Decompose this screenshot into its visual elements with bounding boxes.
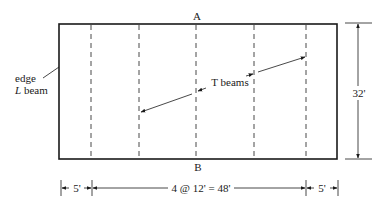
edge-label: edge <box>15 72 36 84</box>
t-beam-arrow-1 <box>141 94 192 112</box>
edge-leader-line <box>43 67 59 78</box>
t-beam-lines <box>91 25 306 158</box>
section-label-b: B <box>194 161 201 173</box>
right-span-label: 5' <box>318 182 326 194</box>
floor-plan-diagram: A B edge L beam T beams 32' 5' 4 @ 12' =… <box>0 0 383 211</box>
t-beams-label: T beams <box>211 76 248 88</box>
l-beam-label: L beam <box>14 84 48 96</box>
left-span-label: 5' <box>73 182 81 194</box>
t-beam-arrow-2 <box>198 88 206 91</box>
middle-span-label: 4 @ 12' = 48' <box>172 182 231 194</box>
section-label-a: A <box>193 10 201 22</box>
t-beam-arrow-3 <box>246 74 253 76</box>
t-beam-arrow-4 <box>258 57 305 72</box>
slab-outline <box>59 24 337 159</box>
height-dimension-label: 32' <box>353 87 366 99</box>
